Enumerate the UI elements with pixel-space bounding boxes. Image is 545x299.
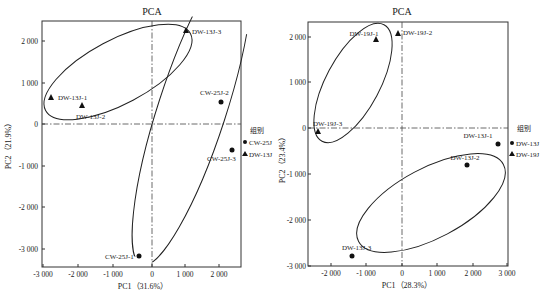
triangle-marker (79, 102, 85, 108)
point-label: CW-25J-3 (207, 155, 236, 163)
x-tick-label: 2 000 (465, 269, 482, 278)
y-tick-label: -1 000 (287, 170, 307, 179)
chart-title: PCA (392, 6, 412, 17)
x-axis-label: PC1（28.3%） (382, 281, 432, 290)
y-tick-label: -1 000 (19, 162, 39, 171)
legend: 组别 DW-13J DW-19J (509, 124, 540, 159)
point-label: DW-19J-1 (349, 30, 379, 38)
pca-figure: PCA 2 000 1 000 0 -1 000 -2 000 -3 000 P… (0, 0, 545, 299)
circle-marker (137, 254, 142, 259)
triangle-marker (48, 94, 54, 100)
pca-chart-left: PCA 2 000 1 000 0 -1 000 -2 000 -3 000 P… (4, 0, 275, 291)
point-label: DW-13J-3 (192, 28, 222, 36)
point-label: CW-25J-1 (105, 253, 134, 261)
triangle-marker (509, 151, 515, 156)
legend-label: DW-13J (516, 140, 540, 148)
circle-marker (350, 254, 355, 259)
x-axis-label: PC1（31.6%） (118, 282, 168, 291)
y-tick-label: 0 (302, 124, 306, 133)
x-tick-label: 1 000 (429, 269, 446, 278)
point-label: DW-13J-2 (450, 154, 480, 162)
x-tick-label: 3 000 (499, 269, 516, 278)
y-axis: 2 000 1 000 0 -1 000 -2 000 -3 000 (19, 37, 45, 254)
y-tick-label: 2 000 (21, 37, 38, 46)
x-tick-label: -3 000 (33, 270, 53, 279)
y-tick-label: 1 000 (289, 78, 306, 87)
point-label: DW-19J-2 (403, 29, 433, 37)
point-label: DW-13J-3 (342, 244, 372, 252)
y-tick-label: 2 000 (289, 33, 306, 42)
x-tick-label: -2 000 (68, 270, 88, 279)
circle-marker (510, 141, 514, 145)
y-axis-label: PC2（23.4%） (278, 133, 287, 183)
y-axis: 2 000 1 000 0 -1 000 -2 000 -3 000 (287, 33, 311, 271)
point-label: DW-13J-2 (76, 113, 106, 121)
x-tick-label: -2 000 (321, 269, 341, 278)
x-tick-label: 1 000 (177, 270, 194, 279)
y-axis-label: PC2（21.9%） (4, 119, 13, 169)
point-label: DW-19J-3 (313, 120, 343, 128)
circle-marker (243, 140, 247, 144)
point-label: DW-13J-1 (463, 132, 493, 140)
legend-label: CW-25J (249, 139, 272, 147)
point-label: DW-13J-1 (58, 94, 88, 102)
y-tick-label: 1 000 (21, 79, 38, 88)
confidence-ellipse-dw13j (31, 5, 206, 139)
chart-title: PCA (142, 6, 162, 17)
legend: 组别 CW-25J DW-13J (242, 126, 273, 159)
circle-marker (219, 100, 224, 105)
x-axis: -3 000 -2 000 -1 000 0 1 000 2 000 (33, 264, 227, 279)
circle-marker (230, 148, 235, 153)
legend-title: 组别 (517, 124, 531, 133)
series-cw25j: CW-25J-1 CW-25J-2 CW-25J-3 (105, 89, 236, 261)
x-tick-label: 0 (400, 269, 404, 278)
y-tick-label: -2 000 (287, 216, 307, 225)
y-tick-label: -2 000 (19, 203, 39, 212)
plot-frame (308, 22, 508, 266)
legend-label: DW-13J (249, 151, 273, 159)
triangle-marker (242, 151, 248, 156)
x-tick-label: 2 000 (211, 270, 228, 279)
y-tick-label: -3 000 (287, 262, 307, 271)
series-dw19j: DW-19J-1 DW-19J-2 DW-19J-3 (313, 29, 433, 134)
x-axis: -2 000 -1 000 0 1 000 2 000 3 000 (321, 263, 515, 278)
x-tick-label: -1 000 (103, 270, 123, 279)
legend-label: DW-19J (516, 151, 540, 159)
triangle-marker (315, 128, 321, 134)
point-label: CW-25J-2 (200, 89, 229, 97)
series-dw13j: DW-13J-1 DW-13J-2 DW-13J-3 (48, 27, 222, 121)
legend-title: 组别 (250, 126, 264, 135)
circle-marker (496, 142, 501, 147)
x-tick-label: -1 000 (356, 269, 376, 278)
series-dw13j: DW-13J-1 DW-13J-2 DW-13J-3 (342, 132, 501, 259)
pca-chart-right: PCA 2 000 1 000 0 -1 000 -2 000 -3 000 P… (278, 6, 540, 290)
plot-frame (42, 21, 241, 267)
triangle-marker (395, 30, 401, 36)
circle-marker (465, 163, 470, 168)
y-tick-label: 0 (34, 120, 38, 129)
y-tick-label: -3 000 (19, 245, 39, 254)
x-tick-label: 0 (150, 270, 154, 279)
